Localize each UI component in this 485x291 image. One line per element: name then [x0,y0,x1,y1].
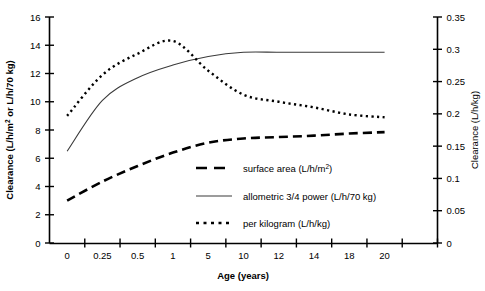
left-tick-label: 0 [35,238,40,249]
x-tick-label: 0 [64,250,69,261]
x-tick-label: 5 [206,250,211,261]
legend-label-per-kilogram: per kilogram (L/h/kg) [243,218,330,229]
left-tick-label: 14 [30,40,41,51]
svg-text:Clearance (L/h/kg): Clearance (L/h/kg) [469,91,480,169]
right-tick-label: 0.25 [447,76,466,87]
left-tick-label: 16 [30,12,41,23]
left-tick-label: 6 [35,153,40,164]
right-tick-label: 0.1 [447,173,460,184]
svg-text:Clearance (L/h/m2 or L/h/70 kg: Clearance (L/h/m2 or L/h/70 kg) [4,60,15,199]
x-tick-label: 0.25 [93,250,112,261]
x-axis-title: Age (years) [217,270,269,281]
legend-label-allometric: allometric 3/4 power (L/h/70 kg) [243,191,376,202]
x-tick-label: 10 [238,250,249,261]
right-tick-label: 0.15 [447,141,466,152]
left-tick-label: 12 [30,68,41,79]
x-tick-label: 1 [170,250,175,261]
x-tick-label: 12 [273,250,284,261]
right-tick-label: 0.05 [447,205,466,216]
chart-background [0,0,485,291]
x-tick-label: 20 [379,250,390,261]
right-tick-label: 0.2 [447,108,460,119]
x-tick-label: 0.5 [131,250,144,261]
right-tick-label: 0.3 [447,44,460,55]
x-tick-label: 18 [344,250,355,261]
left-tick-label: 8 [35,125,40,136]
left-tick-label: 4 [35,181,40,192]
chart-figure: 0246810121416 00.050.10.150.20.250.30.35… [0,0,485,291]
right-axis-title: Clearance (L/h/kg) [469,91,480,169]
left-tick-label: 2 [35,209,40,220]
left-tick-label: 10 [30,96,41,107]
x-tick-label: 14 [309,250,320,261]
legend-label-surface-area: surface area (L/h/m2) [243,163,332,174]
left-axis-title: Clearance (L/h/m2 or L/h/70 kg) [4,60,15,199]
right-tick-label: 0.35 [447,12,466,23]
clearance-vs-age-line-chart: 0246810121416 00.050.10.150.20.250.30.35… [0,0,485,291]
right-tick-label: 0 [447,238,452,249]
